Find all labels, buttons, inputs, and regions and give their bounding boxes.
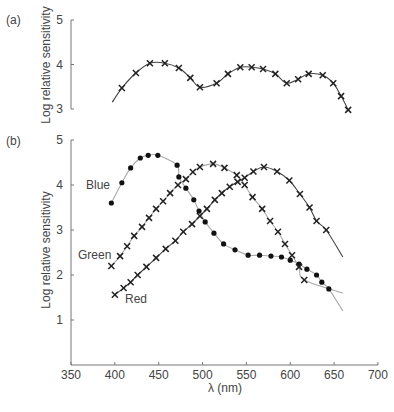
series-label-green: Green xyxy=(78,248,111,262)
dot-marker-icon xyxy=(109,200,114,205)
panel-a-markers xyxy=(119,60,351,113)
y-tick-label: 3 xyxy=(56,102,63,116)
dot-marker-icon xyxy=(211,231,216,236)
panel-b-markers xyxy=(108,153,331,298)
panel-b-x-axis: 350400450500550600650700 xyxy=(61,362,388,382)
spectral-sensitivity-figure: (a) Log relative sensitivity 543 (b) Log… xyxy=(0,0,394,412)
dot-marker-icon xyxy=(155,153,160,158)
dot-marker-icon xyxy=(203,219,208,224)
panel-a-label: (a) xyxy=(6,13,21,27)
y-tick-label: 3 xyxy=(56,223,63,237)
dot-marker-icon xyxy=(319,280,324,285)
curve-green xyxy=(111,164,343,293)
dot-marker-icon xyxy=(268,254,273,259)
dot-marker-icon xyxy=(128,165,133,170)
dot-marker-icon xyxy=(314,272,319,277)
dot-marker-icon xyxy=(246,253,251,258)
dot-marker-icon xyxy=(304,267,309,272)
x-tick-label: 700 xyxy=(368,368,388,382)
curve-blue xyxy=(111,154,343,311)
x-tick-label: 450 xyxy=(149,368,169,382)
x-axis-title: λ (nm) xyxy=(208,381,242,395)
dot-marker-icon xyxy=(191,197,196,202)
dot-marker-icon xyxy=(183,186,188,191)
x-tick-label: 600 xyxy=(280,368,300,382)
dot-marker-icon xyxy=(175,163,180,168)
panel-b-y-axis: 54321 xyxy=(56,133,74,365)
dot-marker-icon xyxy=(119,180,124,185)
y-tick-label: 2 xyxy=(56,268,63,282)
panel-b-curves xyxy=(111,154,343,311)
dot-marker-icon xyxy=(257,253,262,258)
panel-a-y-axis-title: Log relative sensitivity xyxy=(39,6,53,123)
x-tick-label: 350 xyxy=(61,368,81,382)
x-tick-label: 500 xyxy=(193,368,213,382)
panel-a-curves xyxy=(112,62,348,110)
dot-marker-icon xyxy=(326,286,331,291)
dot-marker-icon xyxy=(146,153,151,158)
x-tick-label: 400 xyxy=(105,368,125,382)
panel-b-label: (b) xyxy=(6,134,21,148)
dot-marker-icon xyxy=(221,241,226,246)
panel-b-y-axis-title: Log relative sensitivity xyxy=(39,191,53,308)
y-tick-label: 1 xyxy=(56,313,63,327)
y-tick-label: 4 xyxy=(56,58,63,72)
y-tick-label: 5 xyxy=(56,13,63,27)
dot-marker-icon xyxy=(176,174,181,179)
dot-marker-icon xyxy=(288,258,293,263)
x-tick-label: 550 xyxy=(236,368,256,382)
x-tick-label: 650 xyxy=(324,368,344,382)
dot-marker-icon xyxy=(138,155,143,160)
panel-a-y-axis: 543 xyxy=(56,13,74,116)
panel-a: (a) Log relative sensitivity 543 xyxy=(6,6,351,123)
panel-a-curve xyxy=(112,62,348,110)
dot-marker-icon xyxy=(232,247,237,252)
panel-b: (b) Log relative sensitivity 54321 35040… xyxy=(6,133,388,395)
series-label-red: Red xyxy=(125,292,147,306)
series-label-blue: Blue xyxy=(86,178,110,192)
dot-marker-icon xyxy=(279,254,284,259)
y-tick-label: 4 xyxy=(56,178,63,192)
y-tick-label: 5 xyxy=(56,133,63,147)
